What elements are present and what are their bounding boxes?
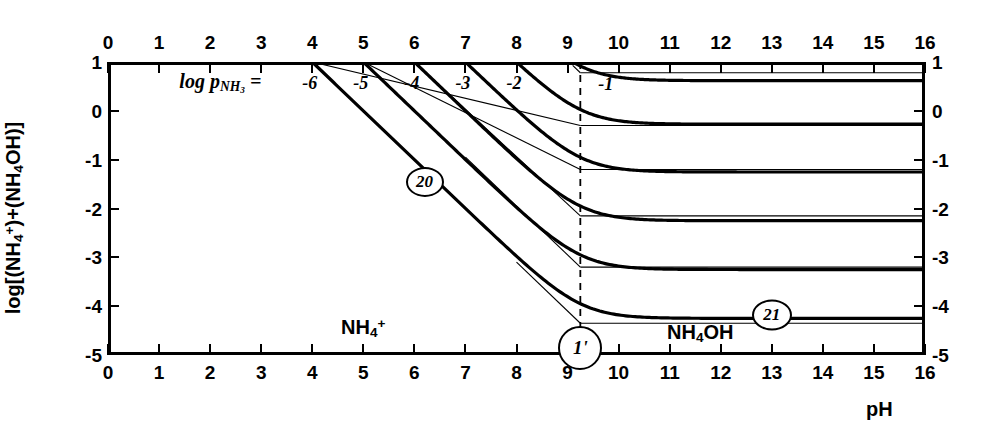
- y-tick-label-left--4: -4: [85, 297, 102, 316]
- curve-label-neg6: -6: [302, 73, 317, 94]
- y-tick-label-right--4: -4: [932, 297, 949, 316]
- x-tick-label-top-2: 2: [205, 33, 216, 52]
- x-tick-top-1: [158, 62, 160, 73]
- y-axis-title: log[(NH4+)+(NH4OH)]: [2, 122, 26, 315]
- x-tick-label-top-4: 4: [307, 33, 318, 52]
- curve-label-neg2: -2: [506, 73, 521, 94]
- x-tick-top-14: [822, 62, 824, 73]
- x-tick-top-9: [567, 62, 569, 73]
- y-tick-right--3: [914, 256, 925, 258]
- x-tick-label-top-16: 16: [914, 33, 935, 52]
- curve-label-neg1: -1: [598, 74, 613, 95]
- x-tick-top-16: [924, 62, 926, 73]
- y-tick-left--4: [108, 305, 119, 307]
- x-tick-label-bottom-16: 16: [914, 363, 935, 382]
- y-tick-right--4: [914, 305, 925, 307]
- x-tick-label-bottom-12: 12: [710, 363, 731, 382]
- x-tick-label-top-11: 11: [660, 33, 680, 52]
- y-tick-left--3: [108, 256, 119, 258]
- x-tick-bottom-13: [771, 344, 773, 355]
- y-tick-label-right--5: -5: [932, 346, 949, 365]
- x-tick-top-7: [464, 62, 466, 73]
- x-tick-top-10: [618, 62, 620, 73]
- y-tick-label-right-0: 0: [932, 101, 943, 120]
- y-tick-label-left-1: 1: [91, 53, 102, 72]
- y-tick-label-left--3: -3: [85, 248, 102, 267]
- x-tick-label-bottom-15: 15: [863, 363, 884, 382]
- x-tick-label-bottom-11: 11: [660, 363, 680, 382]
- x-axis-title: pH: [866, 398, 893, 421]
- x-tick-label-top-6: 6: [409, 33, 420, 52]
- x-tick-top-12: [720, 62, 722, 73]
- y-tick-label-right--3: -3: [932, 248, 949, 267]
- parameter-equation-label: log pNH3 =: [179, 70, 261, 96]
- y-tick-label-right--2: -2: [932, 199, 949, 218]
- species-label-ammonium: NH4+: [341, 316, 385, 340]
- equation-subscript: NH3: [220, 79, 245, 94]
- x-tick-label-bottom-2: 2: [205, 363, 216, 382]
- x-tick-bottom-11: [669, 344, 671, 355]
- x-tick-bottom-12: [720, 344, 722, 355]
- equation-equals: =: [250, 70, 261, 92]
- x-tick-label-bottom-8: 8: [511, 363, 522, 382]
- x-tick-label-top-10: 10: [608, 33, 629, 52]
- x-tick-label-bottom-7: 7: [460, 363, 471, 382]
- x-tick-label-top-0: 0: [103, 33, 114, 52]
- y-title-suffix: OH)]: [2, 122, 24, 165]
- x-tick-bottom-6: [413, 344, 415, 355]
- asymptote-slope-neg4: [414, 62, 580, 216]
- y-tick-left--2: [108, 208, 119, 210]
- y-tick-label-left-0: 0: [91, 101, 102, 120]
- reference-marker-20: 20: [406, 167, 444, 197]
- x-tick-bottom-1: [158, 344, 160, 355]
- y-tick-left--1: [108, 159, 119, 161]
- x-tick-top-6: [413, 62, 415, 73]
- curves-svg: [108, 62, 925, 355]
- x-tick-bottom-5: [362, 344, 364, 355]
- x-tick-bottom-3: [260, 344, 262, 355]
- plot-area: [108, 62, 925, 355]
- x-tick-top-13: [771, 62, 773, 73]
- x-tick-label-bottom-1: 1: [154, 363, 165, 382]
- x-tick-label-top-5: 5: [358, 33, 369, 52]
- y-title-mid: )+(NH: [2, 173, 24, 227]
- reference-marker-21: 21: [752, 299, 792, 330]
- y-tick-left-0: [108, 110, 119, 112]
- y-title-prefix: log[(NH: [2, 242, 24, 314]
- x-tick-label-bottom-0: 0: [103, 363, 114, 382]
- x-tick-bottom-16: [924, 344, 926, 355]
- equation-prefix: log p: [179, 70, 220, 92]
- x-tick-label-top-1: 1: [154, 33, 165, 52]
- asymptote-slope-neg2: [517, 262, 581, 323]
- y-title-sup1: +: [2, 227, 17, 235]
- x-tick-label-bottom-5: 5: [358, 363, 369, 382]
- figure-container: 0011223344556677889910101111121213131414…: [0, 0, 993, 440]
- y-tick-label-left--1: -1: [85, 150, 102, 169]
- x-tick-top-0: [107, 62, 109, 73]
- reference-marker-1-prime: 1': [558, 326, 602, 370]
- y-title-sub2: 4: [11, 165, 26, 173]
- x-tick-bottom-10: [618, 344, 620, 355]
- x-tick-label-top-8: 8: [511, 33, 522, 52]
- x-tick-bottom-14: [822, 344, 824, 355]
- x-tick-top-15: [873, 62, 875, 73]
- x-tick-top-11: [669, 62, 671, 73]
- curve-label-neg3: -3: [455, 73, 470, 94]
- x-tick-label-bottom-14: 14: [812, 363, 833, 382]
- y-tick-label-left--2: -2: [85, 199, 102, 218]
- x-tick-label-top-7: 7: [460, 33, 471, 52]
- x-tick-label-top-14: 14: [812, 33, 833, 52]
- x-tick-bottom-0: [107, 344, 109, 355]
- y-tick-right--1: [914, 159, 925, 161]
- x-tick-label-bottom-3: 3: [256, 363, 267, 382]
- x-tick-bottom-4: [311, 344, 313, 355]
- x-tick-label-bottom-4: 4: [307, 363, 318, 382]
- y-tick-label-left--5: -5: [85, 346, 102, 365]
- species-label-ammonium-hydroxide: NH4OH: [667, 321, 733, 345]
- x-tick-label-bottom-6: 6: [409, 363, 420, 382]
- x-tick-label-top-3: 3: [256, 33, 267, 52]
- y-tick-right--2: [914, 208, 925, 210]
- y-title-sub1: 4: [11, 234, 26, 242]
- x-tick-top-5: [362, 62, 364, 73]
- y-tick-label-right-1: 1: [932, 53, 943, 72]
